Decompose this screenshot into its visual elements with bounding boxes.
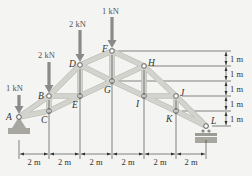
joint-label-B: B [38, 91, 44, 101]
joint-label-G: G [104, 85, 111, 95]
arrowhead-icon [50, 153, 54, 156]
joint-D [78, 63, 83, 68]
load-arrow-shaft [17, 95, 20, 107]
joint-B [47, 94, 52, 99]
horizontal-dimension-label: 2 m [185, 157, 198, 167]
vertical-dimension-label: 1 m [230, 84, 243, 94]
joint-label-H: H [147, 58, 156, 68]
joint-L [204, 124, 209, 129]
joint-label-J: J [180, 88, 185, 98]
load-arrow-shaft [110, 17, 113, 41]
pin-support-base [8, 128, 30, 134]
joint-F [110, 49, 115, 54]
down-arrow-icon [108, 40, 117, 48]
member-DG [80, 65, 112, 81]
arrowhead-icon [113, 153, 117, 156]
joint-label-C: C [41, 115, 48, 125]
arrowhead-icon [81, 153, 85, 156]
horizontal-dimension-label: 2 m [28, 157, 41, 167]
horizontal-dimension-label: 2 m [154, 157, 167, 167]
load-label-F: 1 kN [102, 6, 119, 16]
roller-icon [201, 129, 204, 132]
arrowhead-icon [107, 153, 111, 156]
joint-label-D: D [68, 59, 76, 69]
arrowhead-icon [225, 76, 228, 80]
arrowhead-icon [44, 153, 48, 156]
arrowhead-icon [171, 153, 175, 156]
horizontal-dimension-label: 2 m [122, 157, 135, 167]
arrowhead-icon [225, 121, 228, 125]
vertical-dimension-label: 1 m [230, 54, 243, 64]
load-label-A: 1 kN [6, 83, 23, 93]
joint-label-K: K [165, 114, 173, 124]
arrowhead-icon [225, 67, 228, 71]
arrowhead-icon [225, 82, 228, 86]
roller-plate [195, 133, 217, 136]
joint-label-E: E [71, 100, 78, 110]
arrowhead-icon [20, 153, 24, 156]
member-FH [112, 51, 144, 66]
load-label-D: 2 kN [69, 19, 86, 29]
vertical-dimension-label: 1 m [230, 114, 243, 124]
joint-A [17, 115, 22, 120]
vertical-dimension-label: 1 m [230, 99, 243, 109]
member-BD [49, 65, 80, 96]
vertical-dimension-label: 1 m [230, 69, 243, 79]
supports [8, 117, 217, 143]
arrowhead-icon [225, 112, 228, 116]
joint-label-I: I [135, 99, 140, 109]
arrowhead-icon [225, 97, 228, 101]
roller-icon [207, 129, 210, 132]
arrowhead-icon [139, 153, 143, 156]
arrowhead-icon [225, 52, 228, 56]
horizontal-dimension-label: 2 m [58, 157, 71, 167]
joint-J [174, 94, 179, 99]
member-GH [112, 66, 144, 81]
load-arrow-shaft [78, 30, 81, 55]
joint-label-F: F [101, 44, 108, 54]
arrowhead-icon [177, 153, 181, 156]
member-GI [112, 81, 144, 96]
joint-H [142, 64, 147, 69]
arrowhead-icon [225, 106, 228, 110]
joint-label-L: L [210, 116, 216, 126]
load-label-B: 2 kN [38, 50, 55, 60]
arrowhead-icon [225, 91, 228, 95]
arrowhead-icon [201, 153, 205, 156]
vertical-dimensions: 1 m1 m1 m1 m1 m [225, 52, 244, 125]
arrowhead-icon [225, 61, 228, 65]
truss-diagram: ABCDEFGHIJKL 1 kN2 kN2 kN1 kN 2 m2 m2 m2… [0, 0, 252, 176]
arrowhead-icon [145, 153, 149, 156]
horizontal-dimension-label: 2 m [90, 157, 103, 167]
joint-label-A: A [5, 112, 12, 122]
arrowhead-icon [75, 153, 79, 156]
load-arrow-shaft [47, 62, 50, 86]
